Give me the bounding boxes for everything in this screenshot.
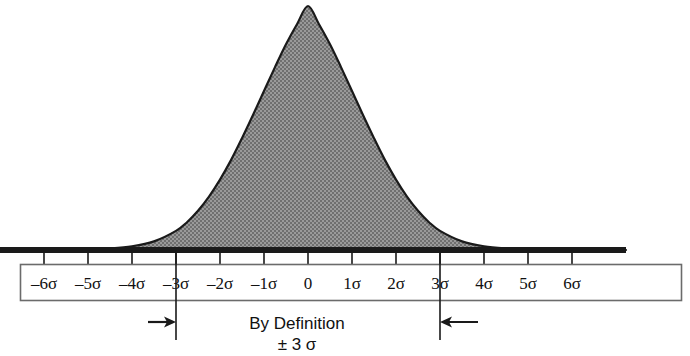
axis-tick-label-6: 0 [304, 274, 313, 293]
axis-tick-label-10: 4σ [475, 274, 493, 293]
axis-tick-label-4: –2σ [206, 274, 233, 293]
axis-tick-label-0: –6σ [30, 274, 57, 293]
axis-tick-label-7: 1σ [343, 274, 361, 293]
axis-tick-label-11: 5σ [519, 274, 537, 293]
axis-tick-label-2: –4σ [118, 274, 145, 293]
caption-line-1: By Definition [249, 314, 344, 333]
normal-distribution-figure: –6σ–5σ–4σ–3σ–2σ–1σ01σ2σ3σ4σ5σ6σ By Defin… [0, 0, 690, 356]
caption-line-2: ± 3 σ [278, 335, 317, 354]
axis-tick-label-1: –5σ [74, 274, 101, 293]
axis-tick-label-12: 6σ [563, 274, 581, 293]
sigma-distribution-chart: –6σ–5σ–4σ–3σ–2σ–1σ01σ2σ3σ4σ5σ6σ By Defin… [0, 0, 690, 356]
axis-tick-label-5: –1σ [250, 274, 277, 293]
axis-tick-label-8: 2σ [387, 274, 405, 293]
